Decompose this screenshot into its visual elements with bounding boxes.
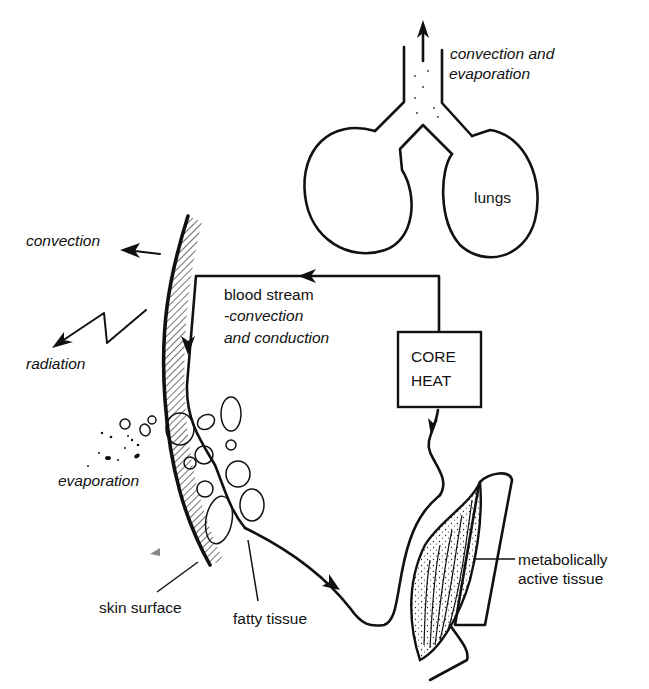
radiation-label: radiation [26,355,85,372]
left-lung [304,125,452,253]
trachea-left-wall [375,47,404,131]
lungs-output-label-1: convection and [450,45,556,62]
evaporation-label: evaporation [58,472,139,489]
arrow-head-up-core-icon [428,418,438,436]
muscle-group [411,473,515,680]
airflow-dots [414,70,439,118]
evaporation-droplets [87,416,156,467]
scan-artifact [150,548,160,556]
lungs-output-label-2: evaporation [449,65,530,82]
blood-stream-sub2: and conduction [224,329,329,346]
convection-arrow [120,243,160,258]
core-heat-label-1: CORE [411,348,456,365]
metabolic-label-1: metabolically [518,551,608,568]
lungs-group: convection and evaporation lungs [304,20,555,257]
skin-surface-leader [157,562,198,592]
heat-loss-diagram: convection and evaporation lungs convect… [0,0,649,689]
core-heat-box: CORE HEAT [398,332,481,407]
fatty-tissue-leader [248,540,258,601]
arrow-head-radiation-icon [52,332,73,348]
blood-stream-label: blood stream [224,286,314,303]
fatty-tissue-label: fatty tissue [233,610,307,627]
skin-surface-label: skin surface [99,599,182,616]
convection-label: convection [26,232,100,249]
radiation-arrow [52,310,146,348]
core-heat-label-2: HEAT [411,372,452,389]
blood-stream-sub1: -convection [224,307,303,324]
skin-group [164,216,223,565]
trachea-right-wall [442,50,472,136]
metabolic-label-2: active tissue [518,570,603,587]
blood-stream-loop [181,269,443,626]
lungs-label: lungs [474,189,511,206]
